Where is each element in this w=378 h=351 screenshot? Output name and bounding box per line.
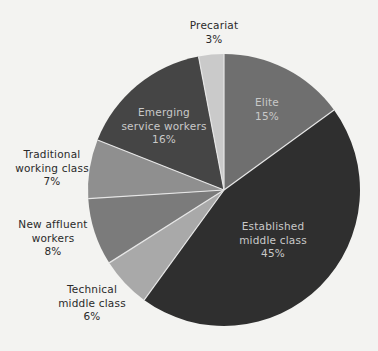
label-text: Elite (255, 96, 279, 110)
label-value: 7% (15, 175, 89, 189)
label-value: 6% (58, 310, 126, 324)
label-value: 16% (121, 133, 206, 147)
label-text: Precariat (190, 19, 239, 33)
label-text: New affluent (18, 218, 87, 232)
label-value: 45% (239, 247, 307, 261)
label-value: 8% (18, 245, 87, 259)
label-text: middle class (239, 234, 307, 248)
label-text: Technical (58, 283, 126, 297)
label-text: Traditional (15, 148, 89, 162)
label-text: middle class (58, 297, 126, 311)
label-elite: Elite 15% (255, 96, 279, 123)
label-new-affluent-workers: New affluent workers 8% (18, 218, 87, 259)
label-text: service workers (121, 120, 206, 134)
label-technical-middle-class: Technical middle class 6% (58, 283, 126, 324)
label-text: workers (18, 232, 87, 246)
label-established-middle-class: Established middle class 45% (239, 220, 307, 261)
label-text: Established (239, 220, 307, 234)
label-value: 15% (255, 110, 279, 124)
label-text: working class (15, 162, 89, 176)
label-precariat: Precariat 3% (190, 19, 239, 46)
label-emerging-service-workers: Emerging service workers 16% (121, 106, 206, 147)
label-value: 3% (190, 33, 239, 47)
label-traditional-working-class: Traditional working class 7% (15, 148, 89, 189)
label-text: Emerging (121, 106, 206, 120)
